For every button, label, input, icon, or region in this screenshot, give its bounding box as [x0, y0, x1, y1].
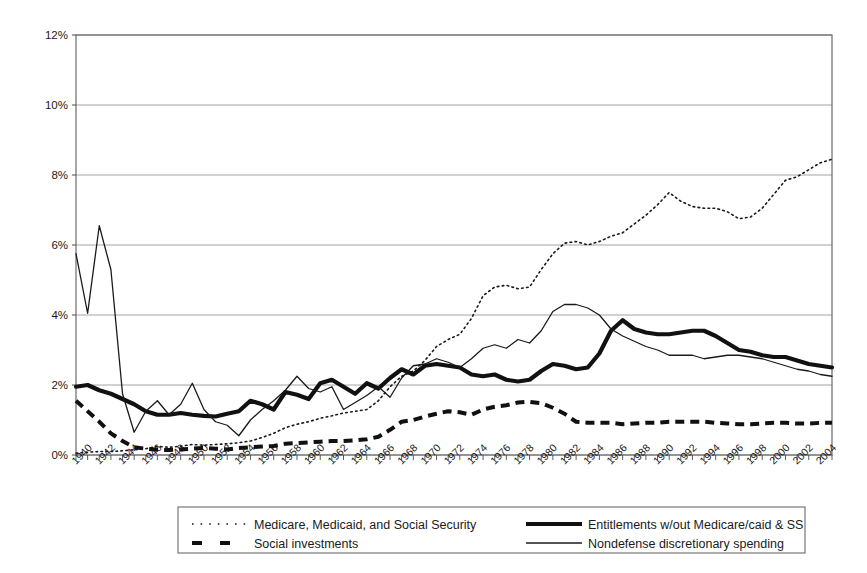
y-tick-label: 4% [51, 309, 68, 321]
chart-background [0, 0, 867, 573]
chart-legend: Medicare, Medicaid, and Social SecurityE… [178, 507, 805, 553]
legend-label: Nondefense discretionary spending [588, 537, 784, 551]
y-tick-label: 0% [51, 449, 68, 461]
y-tick-label: 6% [51, 239, 68, 251]
y-tick-label: 12% [45, 29, 68, 41]
legend-label: Entitlements w/out Medicare/caid & SS [588, 518, 803, 532]
legend-label: Social investments [254, 537, 358, 551]
chart-container: 0%2%4%6%8%10%12% 19401942194419461948195… [0, 0, 867, 573]
y-tick-label: 8% [51, 169, 68, 181]
legend-label: Medicare, Medicaid, and Social Security [254, 518, 477, 532]
y-tick-label: 10% [45, 99, 68, 111]
y-tick-label: 2% [51, 379, 68, 391]
line-chart: 0%2%4%6%8%10%12% 19401942194419461948195… [0, 0, 867, 573]
